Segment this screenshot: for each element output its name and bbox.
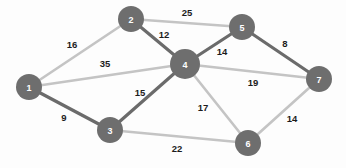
edge-weight-label: 9 — [61, 112, 66, 123]
edge-weight-label: 16 — [67, 39, 78, 50]
graph-edge — [110, 130, 248, 143]
node-label: 1 — [26, 83, 31, 93]
node-label: 6 — [245, 139, 250, 149]
edge-weight-label: 19 — [248, 77, 259, 88]
node-label: 5 — [239, 23, 244, 33]
edge-weight-label: 15 — [135, 87, 146, 98]
edge-weight-label: 25 — [182, 7, 193, 18]
node-label: 2 — [128, 15, 133, 25]
graph-node[interactable]: 7 — [306, 66, 332, 92]
node-label: 3 — [107, 126, 112, 136]
edge-weight-label: 14 — [217, 46, 228, 57]
graph-node[interactable]: 2 — [118, 6, 144, 32]
edge-weight-label: 14 — [287, 113, 298, 124]
graph-canvas: 1234567 1635925121481915172214 — [0, 0, 346, 168]
graph-node[interactable]: 3 — [97, 117, 123, 143]
edge-weight-label: 22 — [172, 143, 183, 154]
edge-weight-label: 17 — [198, 102, 209, 113]
graph-edge — [185, 64, 248, 143]
graph-figure: 1234567 1635925121481915172214 — [0, 0, 346, 168]
node-label: 4 — [182, 60, 187, 70]
graph-node[interactable]: 4 — [170, 49, 200, 79]
edge-weight-label: 12 — [159, 29, 170, 40]
graph-edge — [248, 79, 319, 143]
graph-node[interactable]: 1 — [16, 74, 42, 100]
node-label: 7 — [316, 75, 321, 85]
edge-weight-label: 35 — [100, 58, 111, 69]
graph-edge — [131, 19, 242, 27]
edge-weight-label: 8 — [282, 38, 287, 49]
graph-edge — [29, 19, 131, 87]
graph-node[interactable]: 5 — [229, 14, 255, 40]
graph-edge — [29, 87, 110, 130]
graph-node[interactable]: 6 — [235, 130, 261, 156]
